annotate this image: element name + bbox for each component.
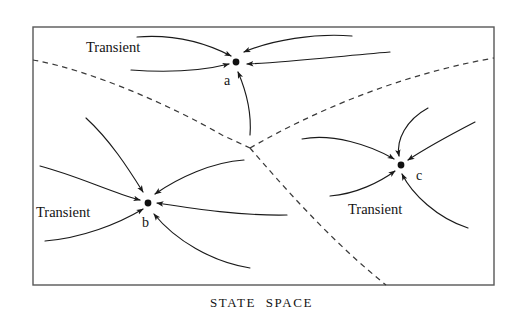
figure-caption: STATE SPACE <box>0 295 523 311</box>
state-space-border <box>33 27 494 285</box>
transient-label-b: Transient <box>36 204 90 220</box>
figure-canvas: abc TransientTransientTransient STATE SP… <box>0 0 523 327</box>
trajectory-a-flow-ne-lower <box>247 52 390 64</box>
trajectory-b-flow-e <box>157 203 287 215</box>
trajectory-b-flow-w-upper <box>40 166 140 200</box>
trajectory-c-flow-sw <box>330 171 395 196</box>
trajectory-b-flow-se <box>154 214 250 268</box>
separatrix-west-branch <box>33 60 250 148</box>
fixed-point-label-c: c <box>416 168 422 183</box>
trajectory-b-flow-ne <box>155 160 244 194</box>
trajectory-b-flow-n <box>86 118 143 192</box>
fixed-point-c <box>398 162 405 169</box>
fixed-point-a <box>233 59 240 66</box>
fixed-point-label-b: b <box>142 215 149 230</box>
transient-label-a: Transient <box>86 39 140 55</box>
trajectory-a-flow-nw-lower <box>131 64 229 71</box>
flow-trajectory-group <box>40 35 475 268</box>
fixed-point-b <box>145 200 152 207</box>
trajectory-c-flow-n <box>398 108 428 156</box>
transient-label-c: Transient <box>348 201 402 217</box>
separatrix-group <box>33 58 494 285</box>
trajectory-c-flow-w <box>302 137 394 159</box>
separatrix-northeast-branch <box>250 58 494 148</box>
trajectory-c-flow-ne <box>408 122 475 160</box>
trajectory-c-flow-se <box>402 174 468 228</box>
trajectory-a-flow-ne-upper <box>244 35 352 52</box>
state-space-diagram: abc TransientTransientTransient <box>0 0 523 327</box>
trajectory-a-flow-south <box>238 72 250 135</box>
trajectory-a-flow-nw-upper <box>137 36 231 56</box>
fixed-point-label-a: a <box>224 73 231 88</box>
